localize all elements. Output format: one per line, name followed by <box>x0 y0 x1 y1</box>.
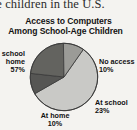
pie-label-at-school: At school 23% <box>95 99 128 115</box>
pie-value-at-home: 10% <box>33 120 77 128</box>
article-body-text-fragment: ge children in the U.S. <box>0 0 137 11</box>
chart-title: Access to Computers Among School-Age Chi… <box>0 16 137 36</box>
pie-value-at-school-and-home: 57% <box>0 66 25 74</box>
pie-value-no-access: 10% <box>99 66 135 74</box>
chart-title-line-2: Among School-Age Children <box>0 26 137 36</box>
pie-label-at-home: At home 10% <box>33 112 77 128</box>
pie-slice <box>30 43 64 77</box>
chart-title-line-1: Access to Computers <box>0 16 137 26</box>
pie-chart-svg <box>29 42 99 112</box>
pie-label-at-school-and-home: school home 57% <box>0 50 25 75</box>
pie-value-at-school: 23% <box>95 107 128 115</box>
pie-label-no-access: No access 10% <box>99 58 135 74</box>
scanned-chart-page: ge children in the U.S. Access to Comput… <box>0 0 137 130</box>
pie-chart <box>29 42 99 112</box>
